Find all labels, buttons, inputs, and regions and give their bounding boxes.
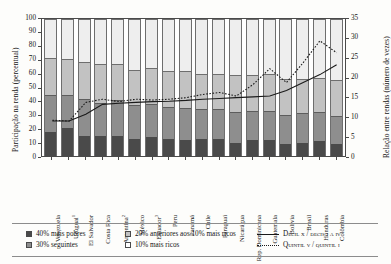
left-tick-mark xyxy=(38,157,41,158)
legend-label: Decil x / decis i a iv xyxy=(283,230,341,238)
legend-item-decile-ratio[interactable]: Decil x / decis i a iv xyxy=(257,228,341,239)
solid-line-icon xyxy=(257,231,279,237)
legend-item-quintile-ratio[interactable]: Quintil v / quintil i xyxy=(257,239,341,250)
legend-label: 20% anteriores aos 10% mais ricos xyxy=(135,230,236,238)
x-tick-mark xyxy=(202,157,203,160)
left-tick-label: 60 xyxy=(14,70,36,77)
right-tick-label: 35 xyxy=(351,15,373,22)
left-tick-label: 0 xyxy=(14,154,36,161)
x-tick-mark xyxy=(319,157,320,160)
x-tick-mark xyxy=(68,157,69,160)
x-tick-mark xyxy=(51,157,52,160)
legend-column-swatches-a: 40% mais pobres30% seguintes xyxy=(26,228,86,250)
right-tick-label: 5 xyxy=(351,134,373,141)
left-tick-label: 80 xyxy=(14,42,36,49)
x-tick-mark xyxy=(185,157,186,160)
right-tick-label: 10 xyxy=(351,114,373,121)
left-tick-label: 100 xyxy=(14,15,36,22)
left-tick-label: 30 xyxy=(14,112,36,119)
x-tick-mark xyxy=(118,157,119,160)
legend-label: Quintil v / quintil i xyxy=(283,241,340,249)
right-tick-label: 0 xyxy=(351,154,373,161)
left-tick-label: 20 xyxy=(14,126,36,133)
left-tick-label: 70 xyxy=(14,56,36,63)
legend-item-poorest-40[interactable]: 40% mais pobres xyxy=(26,228,86,239)
x-tick-mark xyxy=(168,157,169,160)
right-tick-label: 25 xyxy=(351,54,373,61)
left-tick-label: 50 xyxy=(14,84,36,91)
right-tick-label: 20 xyxy=(351,74,373,81)
dotted-line-icon xyxy=(257,242,279,248)
legend-column-lines: Decil x / decis i a ivQuintil v / quinti… xyxy=(257,228,341,250)
x-tick-mark xyxy=(252,157,253,160)
x-axis-labels: VenezuelaUruguai1El SalvadorCosta RicaAr… xyxy=(41,159,346,217)
legend-column-swatches-b: 20% anteriores aos 10% mais ricos10% mai… xyxy=(125,228,236,250)
decile-ratio-line xyxy=(52,65,336,121)
white-swatch xyxy=(125,242,131,248)
x-tick-mark xyxy=(135,157,136,160)
x-tick-mark xyxy=(152,157,153,160)
medium-gray-swatch xyxy=(26,242,32,248)
chart-legend: 40% mais pobres30% seguintes 20% anterio… xyxy=(12,223,378,257)
x-tick-mark xyxy=(285,157,286,160)
x-tick-mark xyxy=(102,157,103,160)
x-tick-mark xyxy=(269,157,270,160)
legend-label: 30% seguintes xyxy=(36,241,78,249)
left-tick-label: 90 xyxy=(14,28,36,35)
legend-label: 40% mais pobres xyxy=(36,230,86,238)
right-axis-title: Relação entre rendas (número de vezes) xyxy=(382,36,391,158)
x-tick-mark xyxy=(302,157,303,160)
x-tick-mark xyxy=(219,157,220,160)
legend-item-next-30[interactable]: 30% seguintes xyxy=(26,239,86,250)
right-tick-label: 30 xyxy=(351,34,373,41)
x-tick-mark xyxy=(235,157,236,160)
left-tick-label: 40 xyxy=(14,98,36,105)
legend-label: 10% mais ricos xyxy=(135,241,179,249)
x-tick-mark xyxy=(85,157,86,160)
right-tick-label: 15 xyxy=(351,94,373,101)
legend-item-next-20[interactable]: 20% anteriores aos 10% mais ricos xyxy=(125,228,236,239)
legend-item-richest-10[interactable]: 10% mais ricos xyxy=(125,239,236,250)
dark-gray-swatch xyxy=(26,231,32,237)
line-overlay xyxy=(42,19,347,158)
light-gray-swatch xyxy=(125,231,131,237)
left-tick-label: 10 xyxy=(14,140,36,147)
plot-area xyxy=(41,18,346,157)
x-tick-mark xyxy=(336,157,337,160)
